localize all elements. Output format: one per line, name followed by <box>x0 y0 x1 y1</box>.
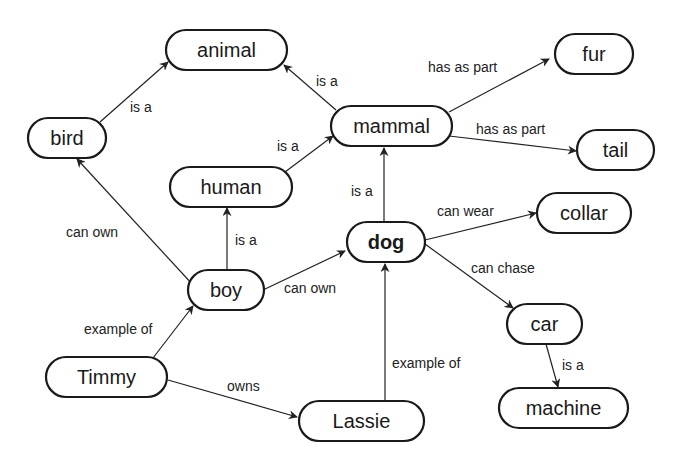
node-lassie: Lassie <box>299 401 424 441</box>
edge-mammal-to-tail: has as part <box>449 121 576 151</box>
node-label: collar <box>560 202 608 224</box>
edge-human-to-mammal: is a <box>277 136 333 172</box>
node-label: dog <box>368 231 405 253</box>
node-label: Timmy <box>77 366 136 388</box>
node-fur: fur <box>555 34 633 74</box>
edge-label: has as part <box>428 59 497 75</box>
edge-timmy-to-lassie: owns <box>168 378 297 417</box>
node-dog: dog <box>347 222 425 262</box>
edge-label: is a <box>562 357 584 373</box>
edge-label: is a <box>351 183 373 199</box>
edge-label: example of <box>84 321 153 337</box>
node-label: bird <box>50 127 83 149</box>
edge-label: is a <box>130 99 152 115</box>
edge-mammal-to-fur: has as part <box>428 59 549 112</box>
arrow-icon <box>449 136 576 151</box>
edge-label: can chase <box>471 260 535 276</box>
node-label: tail <box>603 139 629 161</box>
node-label: Lassie <box>333 410 391 432</box>
node-timmy: Timmy <box>46 357 167 397</box>
node-human: human <box>170 167 292 207</box>
edge-label: has as part <box>476 121 545 137</box>
node-label: boy <box>210 279 242 301</box>
arrow-icon <box>546 344 558 387</box>
edge-label: can own <box>66 224 118 240</box>
node-boy: boy <box>188 270 264 310</box>
edge-dog-to-car: can chase <box>425 244 535 308</box>
arrow-icon <box>153 306 193 358</box>
edge-label: owns <box>227 378 260 394</box>
edge-lassie-to-dog: example of <box>385 264 461 401</box>
edge-dog-to-mammal: is a <box>351 148 384 222</box>
node-label: car <box>531 313 559 335</box>
node-label: mammal <box>353 115 430 137</box>
node-machine: machine <box>499 388 628 428</box>
node-car: car <box>507 304 582 344</box>
edge-bird-to-animal: is a <box>100 62 168 122</box>
edge-label: is a <box>277 138 299 154</box>
node-tail: tail <box>577 130 654 170</box>
edge-label: can own <box>284 280 336 296</box>
concept-map: is ais ais ahas as parthas as partis ais… <box>0 0 675 466</box>
node-label: human <box>200 176 261 198</box>
edge-label: is a <box>235 232 257 248</box>
arrow-icon <box>425 244 513 308</box>
node-collar: collar <box>537 193 631 233</box>
edge-label: example of <box>392 355 461 371</box>
edge-label: can wear <box>437 203 494 219</box>
node-bird: bird <box>28 118 106 158</box>
edge-mammal-to-animal: is a <box>284 65 338 110</box>
node-mammal: mammal <box>331 106 452 146</box>
node-label: fur <box>582 43 606 65</box>
edge-dog-to-collar: can wear <box>425 203 536 240</box>
edge-car-to-machine: is a <box>546 344 584 387</box>
node-animal: animal <box>166 30 287 70</box>
edge-label: is a <box>316 73 338 89</box>
node-label: machine <box>526 397 602 419</box>
edge-boy-to-dog: can own <box>263 251 345 296</box>
nodes-layer: animalfurbirdmammaltailhumancollardogboy… <box>28 30 654 441</box>
edge-timmy-to-boy: example of <box>84 306 193 358</box>
edge-boy-to-human: is a <box>227 208 257 270</box>
node-label: animal <box>197 39 256 61</box>
